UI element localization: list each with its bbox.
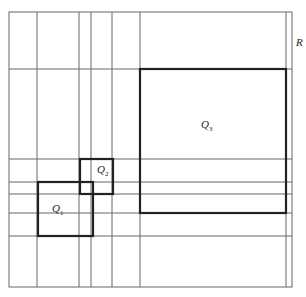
square-q1 [38,182,93,236]
square-label-q1: Q1 [52,203,63,217]
square-label-q3: Q3 [201,119,212,133]
square-label-q2: Q2 [97,164,108,178]
grid-diagram [0,0,306,297]
region-label-r: R [296,37,303,48]
outer-region-r [9,12,292,287]
square-q3 [140,69,286,213]
